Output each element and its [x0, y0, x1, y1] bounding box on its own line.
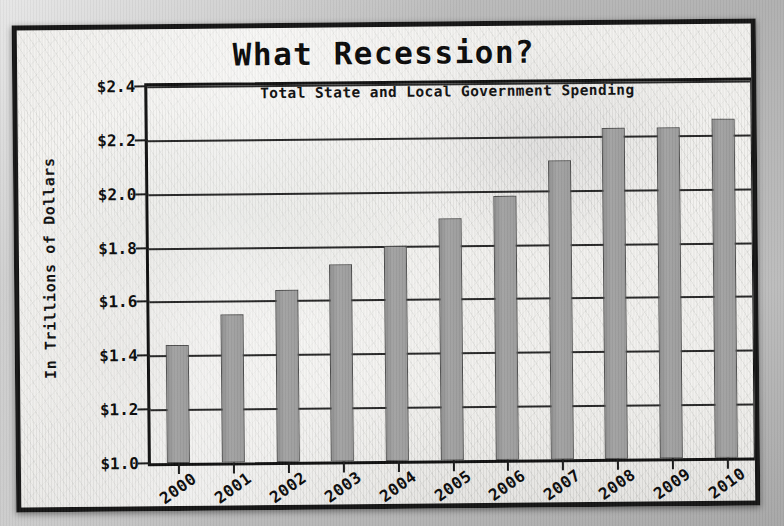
y-axis-tick-mark — [136, 301, 149, 303]
x-axis-tick-mark — [617, 459, 619, 470]
bar — [493, 196, 519, 460]
y-axis-tick-label: $2.0 — [98, 185, 137, 204]
x-axis-tick-mark — [343, 461, 345, 472]
x-axis-tick-mark — [452, 460, 454, 471]
y-axis-tick-mark — [135, 193, 148, 195]
x-axis-tick-label: 2001 — [211, 468, 255, 507]
bar — [548, 160, 574, 459]
gridline-layer — [147, 80, 750, 86]
chart-title: What Recession? — [17, 31, 751, 74]
y-axis-tick-label: $1.4 — [99, 346, 138, 365]
x-axis-tick-label: 2008 — [595, 465, 639, 504]
x-axis-tick-mark — [178, 463, 180, 474]
bar — [275, 290, 300, 463]
y-axis-tick-label: $1.6 — [99, 292, 138, 311]
y-axis-tick-label: $2.4 — [97, 77, 136, 96]
bar — [166, 344, 190, 463]
plot-area: $1.0$1.2$1.4$1.6$1.8$2.0$2.2$2.4 2000200… — [144, 77, 757, 466]
x-axis-tick-label: 2003 — [321, 467, 365, 506]
bar — [220, 314, 244, 462]
x-axis-tick-mark — [726, 458, 728, 469]
x-axis-tick-label: 2009 — [650, 464, 694, 503]
x-axis-tick-label: 2002 — [266, 468, 310, 507]
x-axis-tick-label: 2004 — [376, 467, 420, 506]
y-axis-tick-mark — [138, 462, 151, 464]
x-axis-tick-label: 2010 — [705, 464, 749, 503]
bar — [384, 245, 409, 461]
x-axis-tick-mark — [233, 462, 235, 473]
bar — [712, 118, 738, 458]
chart-card: What Recession? Total State and Local Go… — [12, 18, 761, 512]
bar — [657, 127, 683, 458]
y-axis-tick-mark — [137, 355, 150, 357]
x-axis-tick-label: 2006 — [485, 466, 529, 505]
x-axis-tick-label: 2000 — [157, 469, 201, 508]
y-axis-tick-label: $1.2 — [100, 400, 139, 419]
gridline — [147, 80, 750, 88]
y-axis-tick-mark — [136, 247, 149, 249]
poster-backdrop: What Recession? Total State and Local Go… — [0, 0, 784, 526]
y-axis-title: In Trillions of Dollars — [40, 138, 60, 398]
x-axis-tick-label: 2005 — [431, 466, 475, 505]
x-axis-tick-mark — [288, 462, 290, 473]
y-axis-tick-label: $1.8 — [98, 238, 137, 257]
bar — [329, 265, 354, 462]
y-axis-tick-label: $1.0 — [100, 454, 139, 473]
x-axis-tick-mark — [398, 461, 400, 472]
y-axis-tick-mark — [134, 85, 147, 87]
x-axis-tick-mark — [672, 458, 674, 469]
y-axis-tick-mark — [137, 408, 150, 410]
bar — [439, 218, 464, 461]
x-axis-tick-mark — [507, 460, 509, 471]
bar — [602, 127, 628, 458]
y-axis-tick-label: $2.2 — [97, 131, 136, 150]
x-axis-tick-label: 2007 — [540, 465, 584, 504]
x-axis-tick-mark — [562, 459, 564, 470]
y-axis-tick-mark — [135, 139, 148, 141]
